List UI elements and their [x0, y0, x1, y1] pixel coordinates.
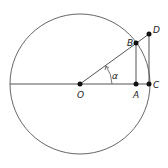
label-a: A: [132, 90, 139, 100]
trig-diagram: O A B C D α: [0, 0, 168, 168]
point-b: [134, 41, 139, 46]
point-c: [147, 82, 152, 87]
label-c: C: [153, 80, 160, 90]
label-b: B: [127, 38, 133, 48]
label-o: O: [77, 90, 84, 100]
label-d: D: [153, 25, 160, 35]
point-d: [147, 32, 152, 37]
label-alpha: α: [112, 71, 118, 81]
point-o: [78, 82, 83, 87]
point-a: [134, 82, 139, 87]
